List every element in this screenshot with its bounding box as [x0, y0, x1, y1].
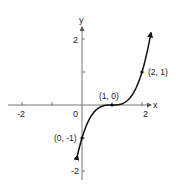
x-tick-label-neg2: -2 [17, 109, 25, 119]
x-tick-label-2: 2 [143, 109, 148, 119]
cubic-graph: x y -2 0 2 2 -2 (0, -1) (1, 0) (2, 1) [0, 0, 176, 188]
point-1-0 [110, 103, 113, 106]
point-label-0-neg1: (0, -1) [54, 133, 77, 143]
y-tick-label-neg2: -2 [71, 166, 79, 176]
origin-label: 0 [73, 109, 78, 119]
x-axis-label: x [153, 100, 158, 110]
point-label-1-0: (1, 0) [99, 91, 119, 101]
point-0-neg1 [80, 136, 83, 139]
point-label-2-1: (2, 1) [148, 67, 168, 77]
y-tick-label-2: 2 [73, 35, 78, 45]
point-2-1 [140, 70, 143, 73]
y-axis-label: y [79, 15, 84, 25]
